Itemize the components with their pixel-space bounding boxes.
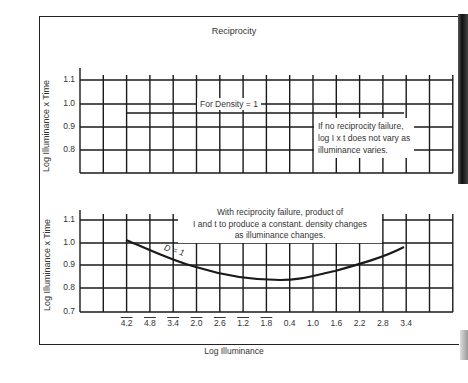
- x-tick-label: 2.0: [185, 318, 209, 328]
- top-ytick: 1.1: [53, 74, 75, 84]
- x-tick-label: 2.2: [348, 318, 372, 328]
- x-axis-label: Log Illuminance: [0, 346, 468, 356]
- bottom-annotation: With reciprocity failure, product of I a…: [178, 206, 382, 243]
- x-tick-label: 1.6: [324, 318, 348, 328]
- top-annotation-line: illuminance varies.: [318, 144, 410, 156]
- top-ytick: 0.9: [53, 121, 75, 131]
- bottom-ytick: 1.1: [53, 214, 75, 224]
- x-tick-label: 1.0: [301, 318, 325, 328]
- bottom-ytick: 0.8: [53, 282, 75, 292]
- x-tick-label: 4.2: [115, 318, 139, 328]
- x-tick-label: 0.4: [278, 318, 302, 328]
- top-ytick: 0.8: [53, 144, 75, 154]
- top-y-axis-label: Log Illuminance x Time: [41, 66, 51, 186]
- bottom-annotation-line: With reciprocity failure, product of: [180, 207, 380, 219]
- x-tick-label: 3.4: [394, 318, 418, 328]
- bottom-ytick: 0.9: [53, 259, 75, 269]
- x-tick-label: 4.8: [138, 318, 162, 328]
- x-tick-label: 2.6: [208, 318, 232, 328]
- x-tick-label: 2.8: [371, 318, 395, 328]
- bottom-annotation-line: I and t to produce a constant. density c…: [180, 219, 380, 231]
- bottom-ytick: 0.7: [53, 306, 75, 316]
- x-tick-label: 1.2: [231, 318, 255, 328]
- top-annotation: If no reciprocity failure, log I x t doe…: [314, 118, 414, 158]
- top-annotation-line: If no reciprocity failure,: [318, 120, 410, 132]
- x-tick-label: 1.8: [254, 318, 278, 328]
- bottom-y-axis-label: Log Illuminance x Time: [42, 205, 52, 325]
- top-annotation-line: log I x t does not vary as: [318, 132, 410, 144]
- top-line-label: For Density = 1: [197, 98, 261, 110]
- bottom-annotation-line: as illuminance changes.: [180, 230, 380, 242]
- x-tick-label: 3.4: [161, 318, 185, 328]
- top-ytick: 1.0: [53, 98, 75, 108]
- bottom-ytick: 1.0: [53, 237, 75, 247]
